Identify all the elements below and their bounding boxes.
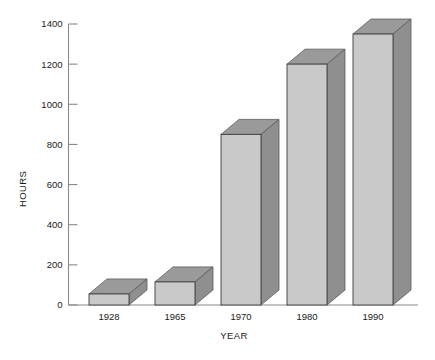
x-tick-label: 1980 (296, 311, 317, 322)
x-tick-label: 1970 (230, 311, 251, 322)
bar (221, 119, 279, 305)
y-tick-label: 800 (47, 139, 63, 150)
bar-series (89, 19, 411, 305)
bar-side-face (261, 119, 279, 305)
x-tick-label: 1990 (362, 311, 383, 322)
bar-side-face (327, 49, 345, 305)
y-tick-label: 1000 (41, 99, 62, 110)
y-tick-label: 1400 (41, 18, 62, 29)
bar-front-face (287, 64, 327, 305)
bar (353, 19, 411, 305)
y-tick-label: 1200 (41, 59, 62, 70)
bar (155, 267, 213, 305)
bar-chart-figure: 0200400600800100012001400 HOURS 19281965… (0, 0, 435, 360)
y-tick-label: 0 (57, 299, 62, 310)
x-axis-group: 19281965197019801990 YEAR (69, 305, 419, 341)
bar-side-face (393, 19, 411, 305)
bar-front-face (155, 282, 195, 305)
y-axis-title: HOURS (17, 171, 28, 207)
y-tick-labels: 0200400600800100012001400 (41, 18, 62, 310)
y-tick-label: 200 (47, 259, 63, 270)
y-axis-group: 0200400600800100012001400 HOURS (17, 18, 78, 310)
x-tick-label: 1928 (98, 311, 119, 322)
bar (89, 279, 147, 305)
y-tick-label: 400 (47, 219, 63, 230)
x-tick-labels: 19281965197019801990 (98, 311, 383, 322)
y-tick-label: 600 (47, 179, 63, 190)
x-axis-title: YEAR (220, 330, 247, 341)
bar (287, 49, 345, 305)
y-tick-marks (69, 24, 78, 305)
chart-canvas: 0200400600800100012001400 HOURS 19281965… (0, 0, 435, 360)
x-tick-label: 1965 (164, 311, 185, 322)
bar-front-face (89, 294, 129, 305)
bar-front-face (221, 134, 261, 305)
bar-front-face (353, 34, 393, 305)
